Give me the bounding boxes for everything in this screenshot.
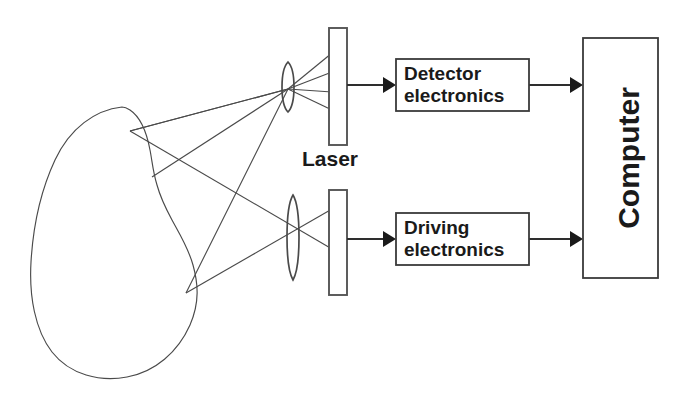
lower-laser-bar	[329, 190, 347, 295]
detector-to-computer-connector	[529, 77, 583, 93]
detector-electronics-label-line2: electronics	[404, 85, 504, 106]
lower-bar-to-driving-connector	[347, 231, 396, 247]
upper-bar-to-detector-connector	[347, 77, 396, 93]
sample-blob	[31, 107, 198, 379]
lower-lens	[287, 195, 299, 280]
computer-label: Computer	[612, 87, 645, 229]
optical-system-diagram: Detector electronics Driving electronics…	[0, 0, 680, 401]
detector-electronics-box: Detector electronics	[396, 59, 529, 111]
upper-laser-bar	[329, 28, 347, 145]
driving-electronics-box: Driving electronics	[396, 213, 529, 265]
detector-electronics-label-line1: Detector	[404, 63, 482, 84]
computer-box: Computer	[583, 38, 658, 278]
upper-ray-fan	[130, 89, 288, 293]
driving-to-computer-connector	[529, 231, 583, 247]
diagram-canvas: Detector electronics Driving electronics…	[0, 0, 680, 401]
driving-electronics-label-line2: electronics	[404, 239, 504, 260]
laser-label: Laser	[302, 147, 358, 170]
driving-electronics-label-line1: Driving	[404, 217, 469, 238]
